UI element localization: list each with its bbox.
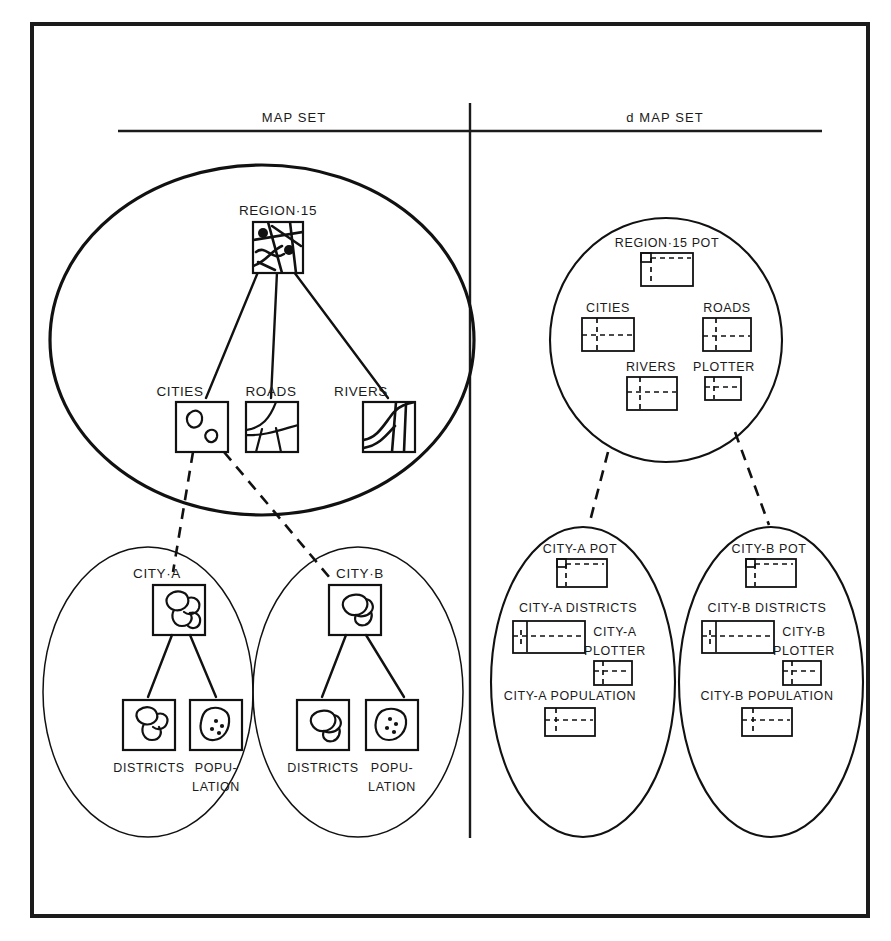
data-structure-block-city-a-population [545, 708, 595, 736]
dashed-link-region-city-b-pot [735, 432, 769, 525]
node-label-city-b-districts: CITY-B DISTRICTS [708, 601, 827, 615]
node-label-city-a-population: CITY-A POPULATION [504, 689, 636, 703]
map-thumbnail-districts-a [123, 700, 175, 750]
node-label-city-a-plotter-line2: PLOTTER [584, 644, 646, 658]
header-label-right: d MAP SET [626, 110, 704, 125]
map-thumbnail-roads [246, 402, 298, 452]
map-thumbnail-region [253, 222, 303, 273]
node-label-city-a-pot: CITY-A POT [543, 542, 617, 556]
node-label-d-plotter: PLOTTER [693, 360, 755, 374]
node-label-city-b-plotter-line1: CITY-B [782, 625, 825, 639]
node-label-population-a-line2: LATION [192, 780, 240, 794]
node-label-population-b-line1: POPU- [371, 761, 414, 775]
data-structure-small-city-b-plotter [783, 661, 821, 685]
edge-city-b-districts [322, 635, 346, 697]
node-label-city-b-population: CITY-B POPULATION [700, 689, 833, 703]
data-structure-block-city-b-population [742, 708, 792, 736]
node-label-region-15: REGION·15 [239, 203, 317, 218]
data-structure-districts-city-a [513, 621, 585, 653]
node-label-city-a-plotter-line1: CITY-A [593, 625, 636, 639]
page-frame [32, 24, 868, 916]
node-label-city-b-plotter-line2: PLOTTER [773, 644, 835, 658]
data-structure-pot-city-a [557, 559, 607, 587]
node-label-population-a-line1: POPU- [195, 761, 238, 775]
node-label-city-b: CITY·B [336, 566, 384, 581]
node-label-districts-a: DISTRICTS [113, 761, 184, 775]
data-structure-pot-city-b [746, 559, 796, 587]
node-label-d-cities: CITIES [586, 301, 630, 315]
data-structure-block-cities [582, 318, 634, 351]
dashed-link-cities-city-a [173, 452, 193, 572]
map-thumbnail-city-a [153, 585, 205, 635]
map-thumbnail-cities [176, 402, 228, 452]
data-structure-block-rivers [627, 377, 677, 410]
edge-region-cities [206, 272, 258, 398]
node-label-city-a-districts: CITY-A DISTRICTS [519, 601, 637, 615]
data-structure-small-plotter [705, 377, 741, 400]
dashed-link-region-city-a-pot [589, 452, 608, 525]
map-thumbnail-population-a [190, 700, 242, 750]
node-label-cities: CITIES [156, 384, 203, 399]
map-thumbnail-rivers [363, 402, 415, 452]
data-structure-block-roads [703, 318, 751, 351]
header-label-left: MAP SET [262, 110, 327, 125]
node-label-rivers: RIVERS [334, 384, 388, 399]
node-label-roads: ROADS [245, 384, 296, 399]
map-thumbnail-city-b [329, 585, 381, 635]
edge-region-roads [271, 272, 277, 398]
node-label-region-15-pot: REGION·15 POT [615, 236, 719, 250]
map-thumbnail-districts-b [297, 700, 349, 750]
data-structure-small-city-a-plotter [594, 661, 632, 685]
data-structure-pot-region [641, 253, 693, 286]
data-structure-districts-city-b [702, 621, 774, 653]
node-label-districts-b: DISTRICTS [287, 761, 358, 775]
node-label-city-b-pot: CITY-B POT [732, 542, 807, 556]
node-label-d-roads: ROADS [703, 301, 750, 315]
node-label-city-a: CITY·A [133, 566, 181, 581]
edge-city-a-districts [148, 635, 172, 697]
diagram-figure: MAP SET d MAP SET REGION·15 CITIES ROADS [0, 0, 891, 941]
edge-city-b-population [366, 635, 404, 697]
node-label-population-b-line2: LATION [368, 780, 416, 794]
edge-city-a-population [190, 635, 216, 697]
edge-region-rivers [294, 272, 388, 398]
map-thumbnail-population-b [366, 700, 418, 750]
node-label-d-rivers: RIVERS [626, 360, 676, 374]
